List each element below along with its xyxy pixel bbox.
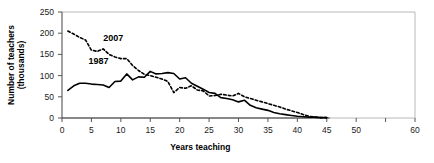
y-tick-label: 50 (45, 92, 55, 102)
x-tick-label: 20 (175, 125, 185, 135)
y-tick-label: 200 (40, 28, 54, 38)
x-tick-label: 45 (322, 125, 332, 135)
y-axis-title-line1: Number of teachers (6, 25, 16, 105)
x-axis-title: Years teaching (170, 142, 230, 152)
x-tick-label: 5 (89, 125, 94, 135)
x-tick-label: 25 (204, 125, 214, 135)
x-tick-label: 15 (146, 125, 156, 135)
line-chart: 0501001502002500510152025303540455060 19… (0, 0, 434, 163)
x-tick-label: 50 (351, 125, 361, 135)
y-axis-title-line2: (thousands) (16, 41, 26, 90)
series-line-1987 (68, 71, 327, 117)
x-tick-label: 0 (60, 125, 65, 135)
axis-tick-labels: 0501001502002500510152025303540455060 (40, 7, 420, 135)
x-tick-label: 30 (234, 125, 244, 135)
series-annotations: 19872007 (88, 33, 123, 66)
chart-container: 0501001502002500510152025303540455060 19… (0, 0, 434, 163)
x-tick-label: 10 (116, 125, 126, 135)
y-tick-label: 100 (40, 71, 54, 81)
axis-ticks (58, 12, 415, 122)
y-tick-label: 250 (40, 7, 54, 17)
y-tick-label: 150 (40, 49, 54, 59)
x-tick-label: 60 (410, 125, 420, 135)
series-line-2007 (68, 31, 327, 118)
y-tick-label: 0 (49, 113, 54, 123)
series-label-1987: 1987 (88, 56, 108, 66)
series-label-2007: 2007 (103, 33, 123, 43)
data-series-layer (68, 31, 327, 118)
x-tick-label: 40 (293, 125, 303, 135)
x-tick-label: 35 (263, 125, 273, 135)
